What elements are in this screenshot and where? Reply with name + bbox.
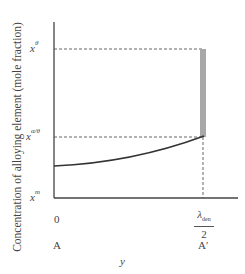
x-alpha-theta-label: xα/θ bbox=[26, 129, 40, 142]
x-theta-label: xθ bbox=[30, 41, 38, 54]
position-a-prime-label: A′ bbox=[198, 239, 208, 251]
x-theta-sup: θ bbox=[35, 39, 38, 47]
lambda-subscript: den bbox=[202, 216, 211, 222]
x-m-label: xm bbox=[30, 190, 40, 203]
x-tick-zero: 0 bbox=[54, 213, 60, 225]
theta-phase-bar bbox=[200, 49, 206, 137]
half-spacing-numerator: λden bbox=[194, 208, 214, 225]
x-axis-label: y bbox=[120, 255, 125, 267]
x-tick-half-spacing: λden 2 bbox=[194, 208, 214, 240]
concentration-profile-curve bbox=[54, 136, 204, 166]
fraction-bar bbox=[194, 226, 214, 227]
position-a-label: A bbox=[53, 239, 61, 251]
y-axis-label: Concentration of alloying element (mole … bbox=[11, 22, 23, 252]
x-alpha-theta-sup: α/θ bbox=[31, 127, 40, 135]
x-m-sup: m bbox=[35, 188, 40, 196]
